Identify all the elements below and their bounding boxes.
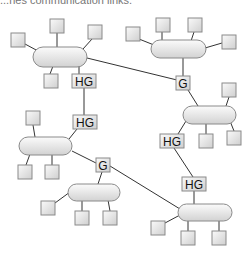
link <box>26 154 30 165</box>
host-icon <box>41 201 55 215</box>
network-segment-bottom-left <box>68 184 120 201</box>
host-icon <box>88 25 102 39</box>
host-icon <box>18 165 32 179</box>
gateway-label: G <box>178 77 187 91</box>
link <box>72 151 96 163</box>
host-icon <box>126 27 140 41</box>
host-icon <box>156 18 170 32</box>
link <box>110 166 180 209</box>
gateway-hg-top-left: HG <box>72 74 96 89</box>
host-icon <box>199 134 213 148</box>
gateway-label: G <box>98 159 107 173</box>
host-icon <box>222 83 236 97</box>
host-icon <box>188 18 202 32</box>
host-icon <box>44 74 58 88</box>
network-segment-left-mid <box>19 137 72 155</box>
host-icon <box>212 231 226 245</box>
link <box>33 125 35 137</box>
gateway-g-lower-mid: G <box>96 158 110 173</box>
gateway-g-top-right: G <box>176 76 190 91</box>
link <box>178 121 186 134</box>
link <box>83 39 92 49</box>
gateway-label: HG <box>76 116 94 130</box>
gateway-label: HG <box>163 135 181 149</box>
link <box>226 97 229 106</box>
link <box>205 43 222 48</box>
host-icon <box>103 211 117 225</box>
link <box>188 90 198 106</box>
host-icon <box>222 35 236 49</box>
link <box>165 215 180 223</box>
link <box>139 39 154 45</box>
network-segment-right-mid <box>183 106 236 124</box>
host-icon <box>26 111 40 125</box>
network-diagram: HG G HG HG G HG <box>0 0 251 254</box>
gateway-hg-right-mid: HG <box>160 134 184 149</box>
host-icon <box>151 221 165 235</box>
host-icon <box>227 131 241 145</box>
host-icon <box>50 19 64 33</box>
gateway-hg-left-mid: HG <box>73 115 97 130</box>
link <box>69 129 77 139</box>
link <box>108 200 110 211</box>
host-icon <box>181 231 195 245</box>
network-segment-top-left <box>33 47 87 67</box>
link <box>87 58 177 80</box>
host-icon <box>11 33 25 47</box>
link <box>98 172 102 184</box>
network-segment-bottom-right <box>178 204 232 221</box>
link <box>174 148 193 177</box>
network-segment-top-right <box>151 40 206 58</box>
gateway-label: HG <box>75 75 93 89</box>
gateway-hg-bottom-right: HG <box>182 177 206 192</box>
host-icon <box>45 165 59 179</box>
host-icon <box>75 211 89 225</box>
gateway-label: HG <box>185 178 203 192</box>
